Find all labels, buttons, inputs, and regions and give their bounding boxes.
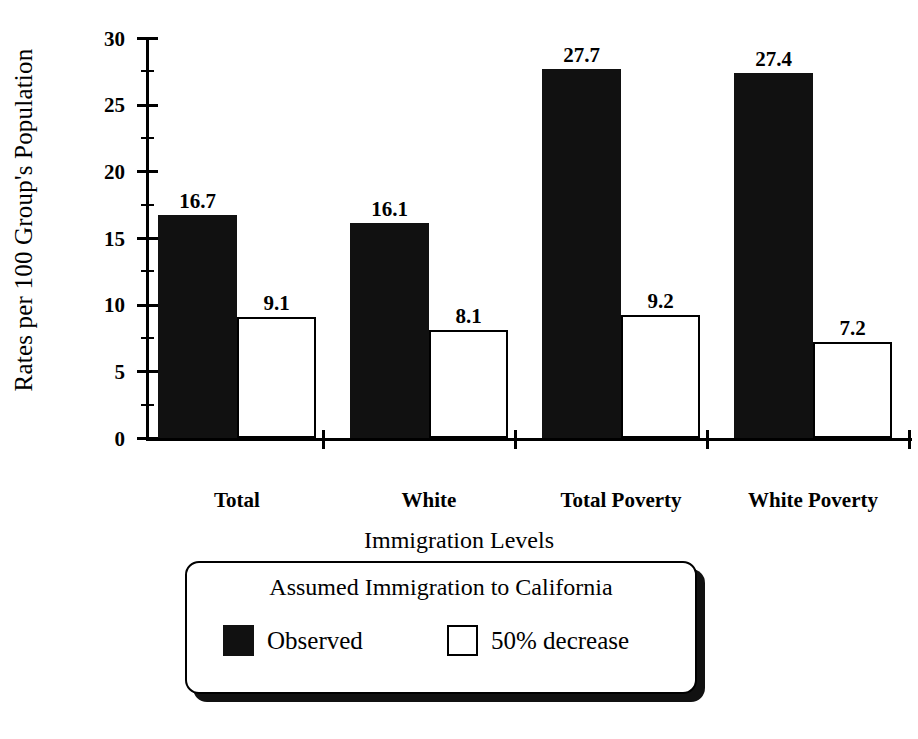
y-tick-minor-7_5 xyxy=(141,337,154,339)
y-tick-label-25: 25 xyxy=(104,95,125,116)
x-group-separator-1 xyxy=(322,430,325,449)
y-tick-minor-17_5 xyxy=(141,204,154,206)
y-tick-label-10: 10 xyxy=(104,295,125,316)
bar-value-label: 7.2 xyxy=(839,318,865,339)
x-axis-line xyxy=(146,438,912,441)
filled-square-icon xyxy=(223,625,254,656)
bar-value-label: 27.4 xyxy=(755,49,792,70)
x-category-label-white-poverty: White Poverty xyxy=(734,490,892,511)
bar-value-label: 16.7 xyxy=(179,191,216,212)
y-tick-minor-2_5 xyxy=(141,404,154,406)
x-group-separator-2 xyxy=(514,430,517,449)
bar-total-poverty-decrease[interactable]: 9.2 xyxy=(621,315,700,438)
bar-chart-figure: Rates per 100 Group's Population 30 25 2… xyxy=(0,0,918,739)
y-tick-label-30: 30 xyxy=(104,28,125,49)
bar-total-decrease[interactable]: 9.1 xyxy=(237,317,316,438)
bar-white-poverty-decrease[interactable]: 7.2 xyxy=(813,342,892,438)
y-tick-label-20: 20 xyxy=(104,161,125,182)
y-tick-20: 20 xyxy=(137,170,158,173)
bar-value-label: 9.1 xyxy=(263,293,289,314)
legend-title: Immigration Levels xyxy=(0,528,918,552)
y-tick-25: 25 xyxy=(137,104,158,107)
legend-box: Assumed Immigration to California Observ… xyxy=(185,561,697,694)
bar-white-observed[interactable]: 16.1 xyxy=(350,223,429,438)
legend-subtitle: Assumed Immigration to California xyxy=(187,575,695,599)
x-category-label-total: Total xyxy=(158,490,316,511)
legend-entry-label: Observed xyxy=(267,628,363,653)
legend-entry-decrease[interactable]: 50% decrease xyxy=(447,625,629,656)
y-tick-label-0: 0 xyxy=(115,428,126,449)
y-tick-30: 30 xyxy=(137,37,158,40)
bar-total-observed[interactable]: 16.7 xyxy=(158,215,237,438)
bar-value-label: 8.1 xyxy=(455,306,481,327)
x-group-separator-3 xyxy=(706,430,709,449)
plot-area: 30 25 20 15 10 5 0 1 xyxy=(146,38,912,440)
bar-value-label: 16.1 xyxy=(371,199,408,220)
bar-white-decrease[interactable]: 8.1 xyxy=(429,330,508,438)
legend-entry-observed[interactable]: Observed xyxy=(223,625,363,656)
bar-value-label: 27.7 xyxy=(563,45,600,66)
x-category-label-white: White xyxy=(350,490,508,511)
y-tick-label-15: 15 xyxy=(104,228,125,249)
y-tick-15: 15 xyxy=(137,237,158,240)
hollow-square-icon xyxy=(447,625,478,656)
bar-white-poverty-observed[interactable]: 27.4 xyxy=(734,73,813,438)
x-category-label-total-poverty: Total Poverty xyxy=(542,490,700,511)
y-tick-5: 5 xyxy=(137,370,158,373)
y-tick-minor-22_5 xyxy=(141,137,154,139)
y-tick-10: 10 xyxy=(137,304,158,307)
y-tick-minor-12_5 xyxy=(141,270,154,272)
y-tick-minor-27_5 xyxy=(141,70,154,72)
legend-entry-label: 50% decrease xyxy=(491,628,629,653)
bar-value-label: 9.2 xyxy=(647,291,673,312)
y-tick-0: 0 xyxy=(137,437,158,440)
y-tick-label-5: 5 xyxy=(115,361,126,382)
x-axis-end-tick xyxy=(908,430,911,449)
y-axis-title: Rates per 100 Group's Population xyxy=(0,0,48,440)
bar-total-poverty-observed[interactable]: 27.7 xyxy=(542,69,621,438)
